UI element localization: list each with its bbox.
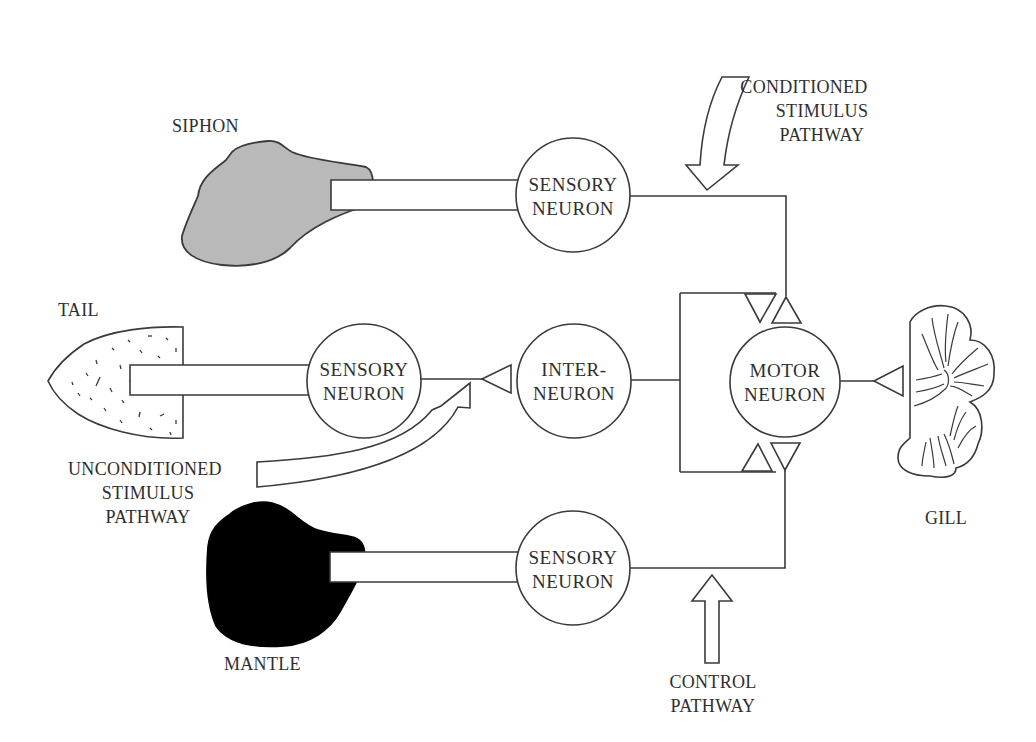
siphon-sensory-axon <box>331 180 522 210</box>
siphon-sensory-neuron-line1: SENSORY <box>528 174 617 195</box>
mantle-output-line <box>630 470 785 568</box>
motor-neuron <box>730 327 840 437</box>
gill-synapse <box>874 366 903 396</box>
mantle-sensory-neuron-line1: SENSORY <box>528 547 617 568</box>
interneuron-upper-synapse <box>745 294 776 322</box>
tail-sensory-axon <box>130 365 312 395</box>
mantle-sensory-neuron <box>516 511 630 625</box>
siphon-sensory-neuron-line2: NEURON <box>532 198 614 219</box>
mantle-label: MANTLE <box>224 654 301 674</box>
control-pathway-arrow <box>692 575 732 663</box>
siphon-output-line <box>630 196 786 296</box>
mantle-synapse <box>771 443 800 470</box>
conditioned-pathway-line2: STIMULUS <box>776 101 868 121</box>
siphon-sensory-neuron <box>516 138 630 252</box>
tail-label: TAIL <box>58 300 99 320</box>
mantle-sensory-neuron-line2: NEURON <box>532 571 614 592</box>
siphon-label: SIPHON <box>172 116 239 136</box>
conditioned-pathway-line3: PATHWAY <box>780 125 865 145</box>
interneuron-lower-synapse <box>742 444 772 471</box>
gill-withdrawal-circuit-diagram: SIPHON SENSORY NEURON CONDITIONED STIMUL… <box>0 0 1036 742</box>
gill-label: GILL <box>925 508 967 528</box>
gill-shape <box>898 306 994 478</box>
interneuron-synapse <box>482 365 511 393</box>
interneuron <box>517 324 631 438</box>
motor-neuron-line2: NEURON <box>744 384 826 405</box>
unconditioned-pathway-line1: UNCONDITIONED <box>68 459 222 479</box>
interneuron-line2: NEURON <box>533 383 615 404</box>
mantle-sensory-axon <box>330 552 522 582</box>
motor-neuron-line1: MOTOR <box>750 360 821 381</box>
tail-sensory-neuron-line1: SENSORY <box>319 359 408 380</box>
interneuron-line1: INTER- <box>541 359 606 380</box>
tail-sensory-neuron <box>307 324 421 438</box>
control-pathway-line1: CONTROL <box>669 672 756 692</box>
siphon-synapse <box>772 297 801 323</box>
unconditioned-pathway-line3: PATHWAY <box>106 507 191 527</box>
control-pathway-line2: PATHWAY <box>671 696 756 716</box>
unconditioned-pathway-line2: STIMULUS <box>102 483 194 503</box>
tail-sensory-neuron-line2: NEURON <box>323 383 405 404</box>
conditioned-pathway-line1: CONDITIONED <box>740 77 867 97</box>
